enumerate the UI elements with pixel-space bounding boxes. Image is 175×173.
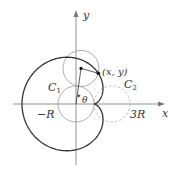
three-r-label: 3R xyxy=(130,108,145,121)
theta-arrow-icon xyxy=(78,95,81,98)
point-dot xyxy=(97,72,101,76)
rolling-center-dot xyxy=(79,67,82,70)
y-axis-label: y xyxy=(82,9,90,22)
x-axis-label: x xyxy=(162,107,169,120)
theta-label: θ xyxy=(82,95,88,105)
cardioid-diagram: y x (x, y) C1 C2 θ −R 3R xyxy=(0,0,175,173)
y-axis xyxy=(74,10,79,165)
x-axis xyxy=(13,102,165,107)
x-axis-arrow-icon xyxy=(158,102,165,107)
neg-r-label: −R xyxy=(37,108,55,121)
y-axis-arrow-icon xyxy=(74,10,79,17)
c1-label: C1 xyxy=(48,81,61,95)
c2-label: C2 xyxy=(124,78,137,92)
point-label: (x, y) xyxy=(102,66,128,77)
